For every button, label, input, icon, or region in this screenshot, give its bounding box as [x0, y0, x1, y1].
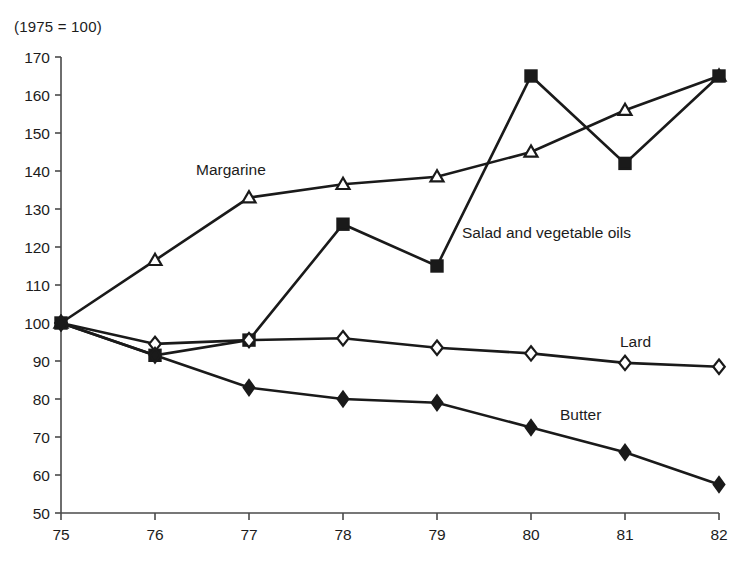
- data-point-marker: [713, 360, 725, 374]
- data-point-marker: [149, 254, 162, 265]
- x-axis-tick-label: 77: [240, 526, 257, 543]
- data-point-marker: [714, 477, 725, 492]
- axis-lines-group: [61, 57, 719, 513]
- y-axis-tick-label: 140: [24, 163, 50, 180]
- y-axis-tick-label: 100: [24, 315, 50, 332]
- y-axis-tick-group: 5060708090100110120130140150160170: [24, 49, 61, 522]
- series-annotation-label: Salad and vegetable oils: [462, 224, 631, 241]
- data-point-marker: [713, 70, 724, 81]
- data-point-marker: [525, 346, 537, 360]
- series-annotation-label: Butter: [560, 406, 601, 423]
- data-point-marker: [619, 158, 630, 169]
- data-point-marker: [431, 341, 443, 355]
- data-point-marker: [619, 356, 631, 370]
- y-axis-tick-label: 170: [24, 49, 50, 66]
- data-point-marker: [337, 219, 348, 230]
- line-chart-plot: 5060708090100110120130140150160170 75767…: [0, 0, 748, 569]
- data-point-marker: [244, 380, 255, 395]
- x-axis-tick-label: 81: [616, 526, 633, 543]
- x-axis-tick-label: 76: [146, 526, 163, 543]
- data-point-marker: [431, 260, 442, 271]
- series-label-layer: MargarineSalad and vegetable oilsLardBut…: [196, 161, 651, 423]
- series-annotation-label: Lard: [620, 333, 651, 350]
- x-axis-tick-label: 80: [522, 526, 540, 543]
- x-axis-tick-label: 79: [428, 526, 445, 543]
- series-line: [61, 76, 719, 355]
- y-axis-tick-label: 160: [24, 87, 50, 104]
- x-axis-tick-group: 7576777879808182: [52, 513, 727, 543]
- x-axis-tick-label: 82: [710, 526, 727, 543]
- chart-container: (1975 = 100) 506070809010011012013014015…: [0, 0, 748, 569]
- data-point-marker: [525, 70, 536, 81]
- y-axis-tick-label: 120: [24, 239, 50, 256]
- y-axis-tick-label: 60: [33, 467, 51, 484]
- y-axis-tick-label: 150: [24, 125, 50, 142]
- y-axis-tick-label: 130: [24, 201, 50, 218]
- x-axis-tick-label: 78: [334, 526, 351, 543]
- y-axis-tick-label: 80: [33, 391, 51, 408]
- data-point-marker: [337, 331, 349, 345]
- x-axis-tick-label: 75: [52, 526, 69, 543]
- y-axis-tick-label: 90: [33, 353, 51, 370]
- series-margarine: [55, 70, 726, 328]
- data-point-marker: [526, 420, 537, 435]
- data-point-marker: [338, 392, 349, 407]
- series-annotation-label: Margarine: [196, 161, 266, 178]
- data-point-marker: [620, 445, 631, 460]
- y-axis-tick-label: 110: [25, 277, 50, 294]
- y-axis-tick-label: 70: [33, 429, 51, 446]
- y-axis-tick-label: 50: [33, 505, 51, 522]
- data-point-marker: [432, 395, 443, 410]
- series-layer: [55, 70, 726, 492]
